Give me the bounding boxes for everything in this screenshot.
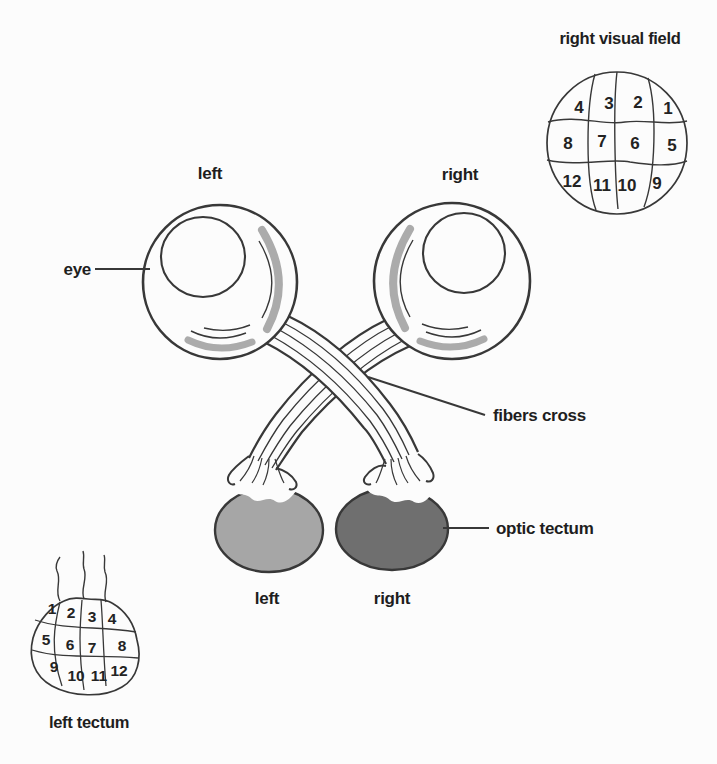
right-visual-field-title: right visual field (559, 29, 680, 47)
tectum-map-fiber-squiggle-2 (83, 551, 85, 599)
eye-label: eye (64, 260, 91, 279)
right-tectum-label: right (374, 589, 411, 608)
right-eyeball (374, 203, 530, 359)
right-visual-field-map: right visual field 4 3 2 1 8 7 6 5 12 11… (547, 29, 687, 214)
left-tectum-lobe (215, 488, 323, 572)
left-eye (143, 205, 297, 359)
rvf-cell-9: 9 (652, 174, 661, 193)
right-eye-label: right (442, 165, 479, 184)
rvf-cell-3: 3 (604, 94, 613, 113)
tectum-map-fiber-squiggle-1 (56, 557, 60, 601)
left-eye-label: left (198, 164, 223, 183)
rvf-cell-10: 10 (618, 176, 637, 195)
rvf-cell-8: 8 (563, 134, 572, 153)
optic-tecta (215, 451, 448, 572)
lt-cell-4: 4 (108, 610, 117, 627)
lt-cell-8: 8 (118, 637, 127, 654)
lt-cell-6: 6 (66, 636, 75, 653)
rvf-cell-7: 7 (597, 132, 606, 151)
visual-field-parallel-1 (548, 119, 687, 123)
left-eyeball (143, 205, 297, 359)
lt-cell-9: 9 (50, 658, 59, 675)
rvf-cell-12: 12 (563, 172, 582, 191)
tectum-map-fiber-squiggle-3 (104, 555, 107, 602)
lt-cell-12: 12 (110, 662, 127, 679)
lt-cell-7: 7 (88, 639, 97, 656)
lt-cell-10: 10 (67, 667, 84, 684)
diagram-svg: eye left right fibers cross optic tectum… (0, 0, 717, 764)
lt-cell-5: 5 (42, 631, 51, 648)
optic-tectum-label: optic tectum (496, 519, 594, 538)
right-eye (374, 203, 530, 359)
rvf-cell-11: 11 (593, 176, 611, 195)
retinotectal-projection-diagram: eye left right fibers cross optic tectum… (0, 0, 717, 764)
rvf-cell-6: 6 (630, 134, 639, 153)
left-tectum-label: left (255, 589, 280, 608)
rvf-cell-2: 2 (633, 93, 642, 112)
rvf-cell-5: 5 (667, 136, 676, 155)
left-tectum-map-caption: left tectum (49, 713, 129, 731)
left-tectum-map: 1 2 3 4 5 6 7 8 9 10 11 12 left tectum (31, 551, 139, 731)
fibers-cross-label: fibers cross (493, 406, 586, 425)
lt-cell-11: 11 (91, 667, 108, 684)
lt-cell-3: 3 (88, 608, 97, 625)
rvf-cell-1: 1 (663, 99, 672, 118)
visual-field-parallel-2 (547, 160, 687, 165)
lt-cell-1: 1 (48, 600, 57, 617)
lt-cell-2: 2 (67, 604, 76, 621)
rvf-cell-4: 4 (574, 98, 584, 117)
